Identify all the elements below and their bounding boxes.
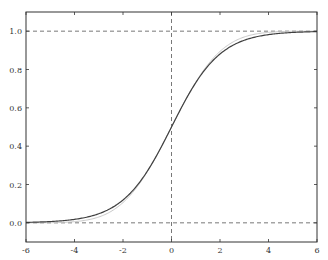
x-tick-label: 4 (266, 246, 271, 255)
y-tick-label: 0.0 (9, 219, 22, 228)
x-tick-label: -4 (71, 246, 79, 255)
y-tick-label: 0.2 (9, 181, 22, 190)
y-tick-label: 0.4 (9, 142, 22, 151)
x-axis-ticks: -6-4-20246 (22, 12, 319, 255)
y-tick-label: 1.0 (9, 27, 22, 36)
y-axis-ticks: 0.00.20.40.60.81.0 (9, 27, 317, 228)
x-tick-label: -6 (22, 246, 30, 255)
x-tick-label: -2 (119, 246, 127, 255)
y-tick-label: 0.6 (9, 104, 22, 113)
x-tick-label: 0 (169, 246, 174, 255)
y-tick-label: 0.8 (9, 66, 22, 75)
x-tick-label: 2 (217, 246, 222, 255)
x-tick-label: 6 (314, 246, 319, 255)
curve-logistic-sigmoid (26, 32, 317, 223)
chart: -6-4-20246 0.00.20.40.60.81.0 (0, 0, 328, 260)
